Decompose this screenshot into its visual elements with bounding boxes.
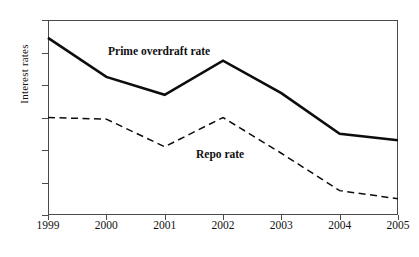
y-tick-mark [42,183,48,184]
y-axis-title: Interest rates [18,14,30,134]
x-tick-label: 2004 [318,220,362,232]
y-tick-mark [42,53,48,54]
x-tick-label: 2003 [259,220,303,232]
x-tick-label: 2005 [376,220,419,232]
x-tick-label: 2000 [84,220,128,232]
y-tick-mark [42,85,48,86]
y-tick-mark [42,150,48,151]
plot-area [48,20,398,215]
x-tick-label: 1999 [26,220,70,232]
x-tick-label: 2001 [143,220,187,232]
series-label-prime-overdraft-rate: Prime overdraft rate [108,45,210,57]
y-tick-mark [42,118,48,119]
series-label-repo-rate: Repo rate [196,148,244,160]
x-tick-label: 2002 [201,220,245,232]
interest-rates-line-chart: Interest rates 181614121086 199920002001… [0,0,419,257]
y-tick-mark [42,20,48,21]
